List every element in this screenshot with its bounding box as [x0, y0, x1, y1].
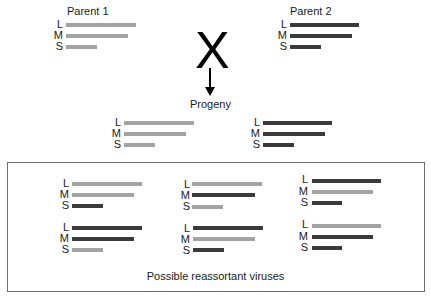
progeny-title: Progeny [190, 98, 231, 110]
reassortant-3-segment-s-bar [312, 201, 342, 205]
segment-label-s: S [59, 244, 69, 255]
reassortant-1-segment-l-bar [72, 182, 142, 186]
reassortant-5-segment-l-bar [193, 226, 263, 230]
parent-2-title: Parent 2 [290, 5, 332, 17]
progeny-left-segment-m-bar [124, 132, 186, 136]
parent-2-segment-l-bar [290, 23, 359, 27]
segment-label-s: S [59, 200, 69, 211]
parent-1-segment-l-bar [66, 23, 136, 27]
reassortant-6-segment-m-bar [312, 235, 373, 239]
parent-1-segment-m-bar [66, 34, 128, 38]
parent-2-segment-s-bar [290, 45, 321, 49]
segment-label-s: S [298, 242, 308, 253]
reassortant-5-segment-s-bar [193, 248, 224, 252]
reassortant-6-segment-l-bar [312, 224, 381, 228]
reassortant-6-segment-s-bar [312, 246, 342, 250]
parent-2-segment-m-bar [290, 34, 352, 38]
progeny-right-segment-l-bar [263, 121, 332, 125]
reassortant-2-segment-m-bar [192, 193, 255, 197]
parent-1-segment-s-bar [66, 45, 97, 49]
segment-label-l: L [298, 174, 308, 185]
reassortant-caption: Possible reassortant viruses [0, 270, 431, 282]
reassortant-2-segment-s-bar [192, 205, 223, 209]
arrow-head-icon [205, 87, 215, 96]
reassortant-2-segment-l-bar [192, 182, 262, 186]
reassortant-4-segment-m-bar [72, 237, 134, 241]
reassortant-1-segment-m-bar [72, 193, 134, 197]
parent-1-title: Parent 1 [67, 5, 109, 17]
reassortant-3-segment-l-bar [312, 179, 381, 183]
reassortant-4-segment-s-bar [72, 248, 103, 252]
reassortant-4-segment-l-bar [72, 226, 142, 230]
segment-label-s: S [277, 41, 287, 52]
arrow-down-icon [209, 68, 211, 89]
progeny-left-segment-l-bar [124, 121, 194, 125]
cross-symbol: X [195, 24, 230, 76]
segment-label-s: S [298, 197, 308, 208]
progeny-left-segment-s-bar [124, 143, 155, 147]
segment-label-s: S [111, 139, 121, 150]
segment-label-s: S [250, 139, 260, 150]
progeny-right-segment-s-bar [263, 143, 294, 147]
reassortant-1-segment-s-bar [72, 204, 103, 208]
segment-label-s: S [180, 201, 190, 212]
reassortant-3-segment-m-bar [312, 190, 373, 194]
progeny-right-segment-m-bar [263, 132, 325, 136]
segment-label-l: L [298, 219, 308, 230]
segment-label-s: S [53, 41, 63, 52]
segment-label-s: S [180, 245, 190, 256]
reassortant-5-segment-m-bar [193, 237, 255, 241]
